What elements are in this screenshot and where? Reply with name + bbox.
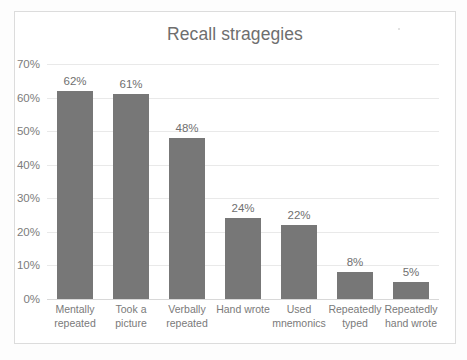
x-category-label-line: repeated	[47, 317, 103, 331]
bar[interactable]	[113, 94, 149, 299]
y-tick-label: 30%	[17, 192, 40, 204]
x-category-label: Mentallyrepeated	[47, 303, 103, 330]
x-axis-category-labels: MentallyrepeatedTook apictureVerballyrep…	[47, 303, 439, 345]
bar[interactable]	[57, 91, 93, 299]
x-category-label-line: Mentally	[47, 303, 103, 317]
x-category-label-line: Took a	[103, 303, 159, 317]
x-category-label: Repeatedlyhand wrote	[383, 303, 439, 330]
bar-value-label: 61%	[119, 78, 142, 90]
bar-series: 62%61%48%24%22%8%5%	[47, 64, 439, 299]
x-category-label-line: Repeatedly	[383, 303, 439, 317]
y-tick-label: 10%	[17, 259, 40, 271]
bar[interactable]	[169, 138, 205, 299]
x-category-label: Verballyrepeated	[159, 303, 215, 330]
bar[interactable]	[337, 272, 373, 299]
x-category-label-line: Repeatedly	[327, 303, 383, 317]
bar-value-label: 62%	[63, 75, 86, 87]
bar-value-label: 8%	[347, 256, 364, 268]
x-category-label: Repeatedlytyped	[327, 303, 383, 330]
gridline-0	[47, 299, 439, 300]
x-category-label-line: hand wrote	[383, 317, 439, 331]
x-category-label-line: picture	[103, 317, 159, 331]
x-category-label: Usedmnemonics	[271, 303, 327, 330]
x-category-label-line: typed	[327, 317, 383, 331]
bar-group: 61%	[103, 64, 159, 299]
bar-group: 48%	[159, 64, 215, 299]
bar-group: 8%	[327, 64, 383, 299]
y-tick-label: 70%	[17, 58, 40, 70]
bar[interactable]	[281, 225, 317, 299]
bar-group: 22%	[271, 64, 327, 299]
bar-value-label: 22%	[287, 209, 310, 221]
bar[interactable]	[393, 282, 429, 299]
x-category-label-line: Verbally	[159, 303, 215, 317]
y-tick-label: 60%	[17, 92, 40, 104]
x-category-label: Took apicture	[103, 303, 159, 330]
x-category-label-line: mnemonics	[271, 317, 327, 331]
y-tick-label: 20%	[17, 226, 40, 238]
bar-value-label: 5%	[403, 266, 420, 278]
chart-title: Recall stragegies	[15, 24, 455, 45]
plot-area: 0%10%20%30%40%50%60%70% 62%61%48%24%22%8…	[47, 64, 439, 299]
y-tick-label: 40%	[17, 159, 40, 171]
x-category-label: Hand wrote	[215, 303, 271, 317]
y-tick-label: 0%	[23, 293, 40, 305]
bar-value-label: 24%	[231, 202, 254, 214]
chart-frame: Recall stragegies 0%10%20%30%40%50%60%70…	[14, 11, 456, 344]
y-tick-label: 50%	[17, 125, 40, 137]
bar-group: 62%	[47, 64, 103, 299]
scan-speck	[398, 28, 400, 30]
x-category-label-line: Used	[271, 303, 327, 317]
bar-group: 5%	[383, 64, 439, 299]
bar[interactable]	[225, 218, 261, 299]
x-category-label-line: Hand wrote	[215, 303, 271, 317]
x-category-label-line: repeated	[159, 317, 215, 331]
bar-group: 24%	[215, 64, 271, 299]
bar-value-label: 48%	[175, 122, 198, 134]
